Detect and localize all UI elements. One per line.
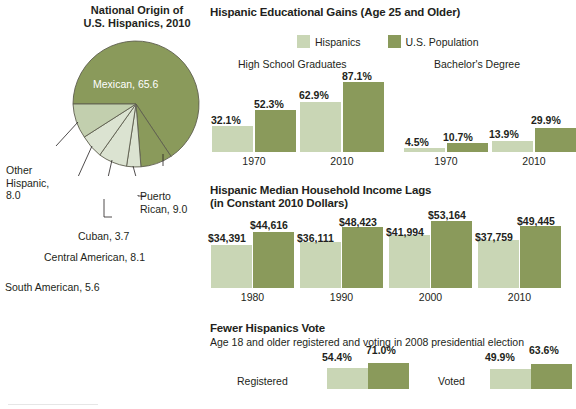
education-year-hs-1970: 1970 <box>212 155 296 167</box>
value-voting-voted-hispanics: 49.9% <box>485 351 515 363</box>
callout-central-american: Central American, 8.1 <box>44 251 145 264</box>
callout-south-american: South American, 5.6 <box>5 281 100 294</box>
value-voting-registered-hispanics: 54.4% <box>322 351 352 363</box>
income-title-line2: (in Constant 2010 Dollars) <box>210 197 431 210</box>
education-bargroup-hs-2010 <box>300 72 384 152</box>
callout-central-american-l1: Central American, 8.1 <box>44 251 145 264</box>
bar-hs-1970-us <box>255 110 296 152</box>
callout-other-hispanic-l2: Hispanic, <box>6 177 49 190</box>
pie-title-line1: National Origin of <box>52 4 222 17</box>
value-income-2000-us: $53,164 <box>428 209 466 221</box>
bar-voting-voted-hispanics <box>490 369 531 389</box>
bar-ba-2010-us <box>535 128 576 152</box>
callout-puerto-rican: Puerto Rican, 9.0 <box>140 190 187 215</box>
callout-puerto-rican-l1: Puerto <box>140 190 187 203</box>
value-hs-2010-us: 87.1% <box>342 70 372 82</box>
bar-hs-2010-hispanics <box>300 102 341 152</box>
legend: Hispanics U.S. Population <box>297 35 479 48</box>
bar-hs-2010-us <box>343 82 384 152</box>
education-bargroup-hs-1970 <box>212 72 296 152</box>
education-year-hs-2010: 2010 <box>300 155 384 167</box>
value-ba-2010-us: 29.9% <box>531 114 561 126</box>
bottom-divider <box>8 404 98 405</box>
legend-swatch-us-population <box>388 35 401 48</box>
bar-income-2000-us <box>431 221 472 288</box>
value-hs-1970-hispanics: 32.1% <box>211 114 241 126</box>
education-section-title: Hispanic Educational Gains (Age 25 and O… <box>210 6 460 18</box>
leader-south-american <box>68 146 92 176</box>
bar-income-2010-us <box>520 226 561 289</box>
income-year-2010: 2010 <box>478 291 561 303</box>
education-group-label-bachelors: Bachelor's Degree <box>434 58 520 70</box>
value-income-1990-hispanics: $36,111 <box>297 232 334 244</box>
voting-label-voted: Voted <box>438 375 465 387</box>
income-title-line1: Hispanic Median Household Income Lags <box>210 184 431 197</box>
pie-chart <box>0 36 210 176</box>
callout-cuban-l1: Cuban, 3.7 <box>78 230 129 243</box>
value-voting-voted-us: 63.6% <box>529 344 559 356</box>
bar-voting-registered-us <box>368 363 409 389</box>
leader-central-american <box>104 160 112 176</box>
value-ba-2010-hispanics: 13.9% <box>489 128 519 140</box>
education-group-label-high-school: High School Graduates <box>238 58 347 70</box>
voting-label-registered: Registered <box>237 375 288 387</box>
pie-label-mexican: Mexican, 65.6 <box>93 78 158 90</box>
value-income-1990-us: $48,423 <box>339 216 377 228</box>
income-year-1980: 1980 <box>211 291 294 303</box>
value-voting-registered-us: 71.0% <box>366 344 396 356</box>
callout-puerto-rican-l2: Rican, 9.0 <box>140 203 187 216</box>
bar-income-2000-hispanics <box>389 235 430 288</box>
leader-cuban <box>133 166 138 176</box>
bar-ba-1970-us <box>447 143 488 152</box>
value-income-1980-us: $44,616 <box>250 219 288 231</box>
value-ba-1970-us: 10.7% <box>443 131 473 143</box>
value-income-2010-us: $49,445 <box>517 215 555 227</box>
bar-ba-2010-hispanics <box>492 141 533 152</box>
bar-ba-1970-hispanics <box>404 148 445 152</box>
value-income-1980-hispanics: $34,391 <box>208 232 246 244</box>
pie-chart-title: National Origin of U.S. Hispanics, 2010 <box>52 4 222 30</box>
value-income-2010-hispanics: $37,759 <box>475 231 513 243</box>
callout-other-hispanic-l1: Other <box>6 164 49 177</box>
legend-swatch-hispanics <box>297 35 310 48</box>
value-hs-2010-hispanics: 62.9% <box>299 89 329 101</box>
education-year-ba-2010: 2010 <box>492 155 576 167</box>
legend-label-hispanics: Hispanics <box>315 36 361 48</box>
value-ba-1970-hispanics: 4.5% <box>405 136 429 148</box>
callout-other-hispanic-l3: 8.0 <box>6 189 49 202</box>
leader-other-hispanic <box>56 122 78 146</box>
hook-central-american <box>104 199 112 217</box>
callout-cuban: Cuban, 3.7 <box>78 230 129 243</box>
pie-slices <box>73 41 199 167</box>
callout-other-hispanic: Other Hispanic, 8.0 <box>6 164 49 202</box>
bar-voting-registered-hispanics <box>327 368 368 389</box>
bar-income-1980-us <box>253 232 294 288</box>
bar-voting-voted-us <box>531 364 572 389</box>
value-income-2000-hispanics: $41,994 <box>386 226 424 238</box>
value-hs-1970-us: 52.3% <box>254 98 284 110</box>
income-year-2000: 2000 <box>389 291 472 303</box>
bar-income-1990-hispanics <box>300 242 341 288</box>
bar-income-1990-us <box>342 227 383 288</box>
legend-label-us-population: U.S. Population <box>406 36 479 48</box>
bar-income-1980-hispanics <box>211 245 252 289</box>
voting-bargroup-registered <box>327 363 409 389</box>
voting-section-title: Fewer Hispanics Vote <box>210 322 325 334</box>
education-bargroup-ba-2010 <box>492 72 576 152</box>
voting-bargroup-voted <box>490 363 572 389</box>
pie-title-line2: U.S. Hispanics, 2010 <box>52 17 222 30</box>
income-year-1990: 1990 <box>300 291 383 303</box>
bar-income-2010-hispanics <box>478 240 519 288</box>
income-section-title: Hispanic Median Household Income Lags (i… <box>210 184 431 209</box>
bar-hs-1970-hispanics <box>212 126 253 152</box>
callout-south-american-l1: South American, 5.6 <box>5 281 100 294</box>
education-year-ba-1970: 1970 <box>404 155 488 167</box>
